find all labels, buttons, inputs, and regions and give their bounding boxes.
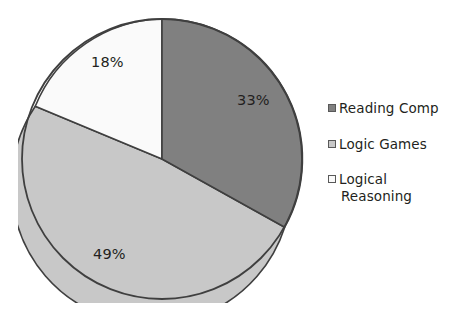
pie-plot-area (18, 15, 306, 303)
legend-swatch-icon (328, 175, 336, 183)
slice-label-reading-comp: 33% (237, 92, 270, 108)
legend-label-logic-games: Logic Games (339, 136, 427, 153)
legend-swatch-icon (328, 104, 336, 112)
legend-item-logical-reasoning[interactable]: Logical Reasoning (328, 171, 450, 204)
legend-item-reading-comp[interactable]: Reading Comp (328, 100, 450, 117)
legend-item-logic-games[interactable]: Logic Games (328, 136, 450, 153)
slice-label-logical-reasoning: 18% (91, 54, 124, 70)
legend-swatch-icon (328, 140, 336, 148)
legend-label-line: Reading Comp (339, 100, 439, 117)
legend-label-logical-reasoning: Logical Reasoning (339, 171, 412, 204)
slice-label-logic-games: 49% (93, 246, 126, 262)
legend-label-line: Logical (339, 171, 412, 188)
legend-label-line: Reasoning (339, 188, 412, 205)
pie-svg (18, 15, 306, 303)
legend-label-reading-comp: Reading Comp (339, 100, 439, 117)
pie-chart: 33% 49% 18% Reading Comp Logic Games Log… (0, 0, 453, 318)
legend: Reading Comp Logic Games Logical Reasoni… (328, 100, 450, 223)
legend-label-line: Logic Games (339, 136, 427, 153)
